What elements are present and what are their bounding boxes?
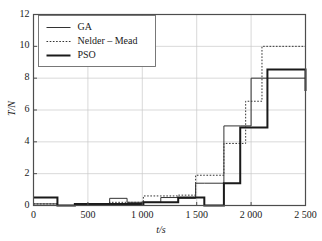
legend-label-pso: PSO <box>78 49 96 60</box>
y-axis-tick-label: 12 <box>20 8 30 19</box>
y-axis-tick-label: 2 <box>25 167 30 178</box>
x-axis-tick-label: 1 000 <box>117 209 167 220</box>
series-line-pso <box>34 69 306 205</box>
y-axis-tick-label: 10 <box>20 39 30 50</box>
chart-plot-area <box>0 0 322 241</box>
x-axis-tick-label: 1 500 <box>172 209 222 220</box>
x-axis-tick-label: 2 000 <box>226 209 276 220</box>
legend-label-ga: GA <box>78 21 92 32</box>
legend-label-nelder-mead: Nelder – Mead <box>78 35 138 46</box>
x-axis-tick-label: 2 500 <box>281 209 322 220</box>
figure-container: T/N t/s 02468101205001 0001 5002 0002 50… <box>0 0 322 241</box>
x-axis-tick-label: 0 <box>9 209 59 220</box>
y-axis-label: T/N <box>6 89 17 129</box>
series-line-nelder-mead <box>34 46 306 205</box>
y-axis-tick-label: 8 <box>25 71 30 82</box>
y-axis-tick-label: 4 <box>25 135 30 146</box>
x-axis-label: t/s <box>0 224 322 235</box>
y-axis-tick-label: 6 <box>25 103 30 114</box>
x-axis-tick-label: 500 <box>63 209 113 220</box>
